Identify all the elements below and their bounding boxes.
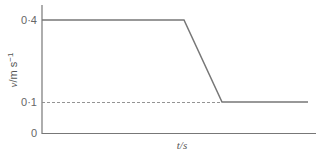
- ytick-0: 0: [31, 127, 37, 139]
- velocity-line: [42, 20, 308, 102]
- ytick-0-4: 0·4: [21, 14, 37, 26]
- ytick-0-1: 0·1: [21, 96, 37, 108]
- velocity-time-chart: 0·4 0·1 0 t/s v/m s−1: [0, 0, 323, 155]
- y-axis-label: v/m s−1: [6, 52, 19, 87]
- x-axis-label: t/s: [177, 139, 187, 151]
